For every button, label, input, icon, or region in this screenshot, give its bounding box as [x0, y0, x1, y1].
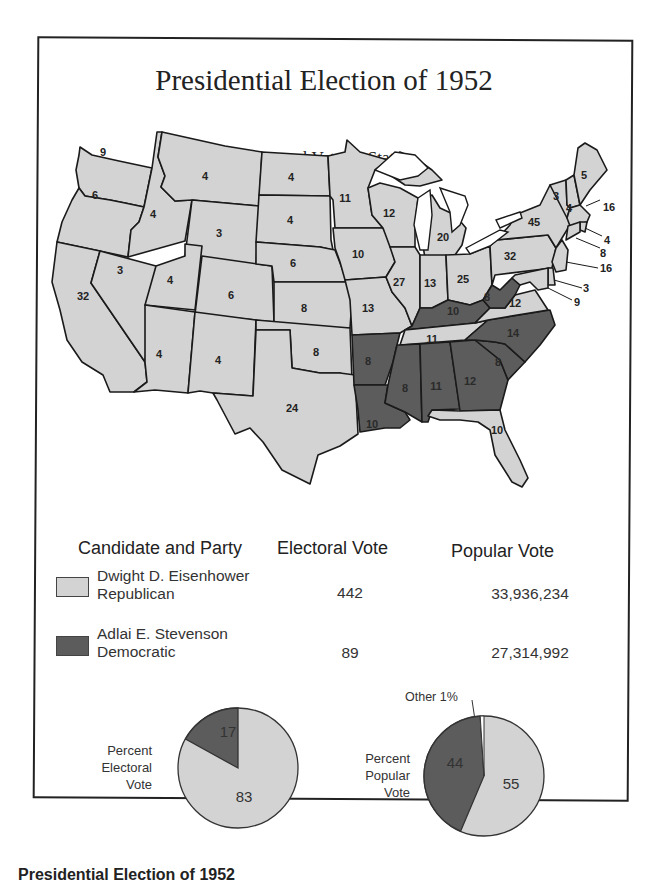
candidate-party: Republican: [97, 585, 249, 603]
label-me: 5: [581, 169, 587, 181]
label-mo: 13: [362, 302, 374, 314]
label-ks: 8: [301, 302, 307, 314]
label-ut: 4: [167, 274, 174, 286]
label-wi: 12: [383, 207, 395, 219]
state-mt: [158, 132, 262, 206]
label-ia: 10: [352, 248, 364, 260]
label-mn: 11: [339, 192, 351, 204]
label-ar: 8: [365, 355, 371, 367]
label-ga: 12: [464, 375, 476, 387]
pie-electoral-label: Percent Electoral Vote: [90, 742, 152, 793]
label-md: 9: [574, 296, 580, 308]
label-vt: 3: [553, 190, 559, 202]
label-mi: 20: [437, 231, 449, 243]
label-az: 4: [156, 348, 163, 360]
label-ct: 8: [600, 247, 606, 259]
label-in: 13: [424, 277, 436, 289]
pie-electoral-rep-value: 83: [236, 788, 253, 805]
legend-swatch-republican: [56, 577, 89, 597]
state-nd: [259, 152, 330, 196]
label-nc: 14: [507, 327, 520, 339]
header-electoral-vote: Electoral Vote: [277, 538, 388, 559]
label-ri: 4: [604, 234, 611, 246]
label-wa: 9: [100, 146, 106, 158]
state-ut: [145, 244, 202, 310]
electoral-vote-stevenson: 89: [320, 644, 380, 662]
label-de: 3: [583, 282, 589, 294]
candidate-stevenson: Adlai E. Stevenson Democratic: [97, 625, 228, 661]
label-pa: 32: [504, 250, 516, 262]
label-il: 27: [393, 276, 405, 288]
state-co: [195, 256, 274, 322]
pie-popular-label: Percent Popular Vote: [355, 750, 410, 801]
popular-vote-eisenhower: 33,936,234: [470, 585, 590, 603]
pie-popular-dem-value: 44: [447, 754, 464, 771]
electoral-vote-eisenhower: 442: [320, 584, 380, 602]
label-nj: 16: [600, 262, 612, 274]
state-nm: [188, 312, 256, 396]
label-nm: 4: [215, 354, 222, 366]
label-sd: 4: [287, 214, 294, 226]
pie-popular-rep-value: 55: [503, 775, 520, 792]
popular-vote-stevenson: 27,314,992: [470, 644, 590, 662]
pie-electoral-dem-value: 17: [220, 723, 237, 740]
label-ne: 6: [290, 257, 296, 269]
state-fl: [428, 410, 528, 487]
label-sc: 8: [495, 356, 501, 368]
label-mt: 4: [202, 170, 209, 182]
label-ky: 10: [447, 305, 459, 317]
candidate-eisenhower: Dwight D. Eisenhower Republican: [97, 567, 249, 603]
label-tn: 11: [426, 333, 438, 345]
label-oh: 25: [457, 273, 469, 285]
state-ri: [580, 222, 587, 232]
label-ma: 16: [603, 201, 615, 213]
label-id: 4: [150, 208, 157, 220]
label-or: 6: [92, 189, 98, 201]
us-electoral-map: 9 6 32 4 3 4 3 4 6 4 4 4 4 6 8 8 24 11 1…: [0, 0, 648, 520]
label-ca: 32: [77, 290, 89, 302]
label-ny: 45: [528, 216, 540, 228]
label-fl: 10: [491, 424, 503, 436]
state-me: [574, 143, 607, 205]
label-nh: 4: [566, 202, 573, 214]
label-nv: 3: [117, 264, 123, 276]
label-co: 6: [228, 289, 234, 301]
pie-electoral-vote: 17 83: [175, 705, 300, 830]
header-candidate-party: Candidate and Party: [78, 538, 242, 559]
candidate-party: Democratic: [97, 643, 228, 661]
label-tx: 24: [286, 402, 299, 414]
label-la: 10: [366, 418, 378, 430]
label-nd: 4: [288, 171, 295, 183]
legend-swatch-democratic: [56, 636, 89, 656]
pie-popular-vote: 44 55: [421, 713, 546, 838]
candidate-name: Adlai E. Stevenson: [97, 625, 228, 643]
state-de: [548, 268, 555, 285]
label-ok: 8: [313, 346, 319, 358]
label-wv: 8: [484, 291, 490, 303]
candidate-name: Dwight D. Eisenhower: [97, 567, 249, 585]
state-sd: [256, 195, 333, 250]
label-va: 12: [509, 297, 521, 309]
header-popular-vote: Popular Vote: [451, 541, 554, 562]
label-al: 11: [430, 380, 442, 392]
state-ks: [274, 282, 352, 328]
label-wy: 3: [216, 227, 222, 239]
label-ms: 8: [402, 382, 408, 394]
figure-caption: Presidential Election of 1952: [18, 866, 235, 884]
